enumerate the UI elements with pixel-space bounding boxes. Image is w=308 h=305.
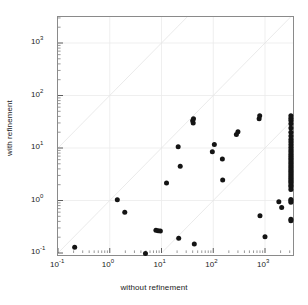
y-axis-label-container: with refinement bbox=[5, 68, 19, 188]
data-point bbox=[263, 234, 268, 239]
data-point bbox=[212, 142, 217, 147]
scatter-plot-figure: 10-1100101102103 10-1100101102103 withou… bbox=[0, 0, 308, 305]
data-point bbox=[164, 181, 169, 186]
data-point bbox=[276, 199, 281, 204]
data-point bbox=[176, 144, 181, 149]
data-point bbox=[158, 229, 163, 234]
reference-line-lower-offset bbox=[162, 122, 291, 253]
data-point bbox=[288, 200, 293, 205]
reference-line-identity bbox=[58, 17, 291, 253]
x-tick-label-2: 101 bbox=[154, 260, 166, 269]
diagonal-reference-lines bbox=[58, 17, 291, 253]
data-point bbox=[192, 242, 197, 247]
plot-frame bbox=[58, 17, 294, 256]
y-tick-label-0: 10-1 bbox=[31, 247, 45, 256]
y-tick-label-2: 101 bbox=[31, 142, 43, 151]
data-point bbox=[210, 149, 215, 154]
data-point bbox=[288, 218, 293, 223]
reference-line-upper-offset bbox=[58, 17, 187, 148]
data-point bbox=[115, 197, 120, 202]
data-point bbox=[279, 205, 284, 210]
data-point bbox=[235, 129, 240, 134]
data-point bbox=[257, 213, 262, 218]
data-point bbox=[220, 178, 225, 183]
data-point bbox=[72, 245, 77, 250]
data-point bbox=[143, 251, 148, 256]
x-tick-label-4: 103 bbox=[257, 260, 269, 269]
data-points bbox=[72, 113, 293, 256]
x-axis-label: without refinement bbox=[0, 283, 308, 292]
x-tick-label-0: 10-1 bbox=[50, 260, 64, 269]
data-point bbox=[178, 164, 183, 169]
x-tick-label-3: 102 bbox=[205, 260, 217, 269]
data-point bbox=[191, 116, 196, 121]
data-point bbox=[220, 156, 225, 161]
data-point bbox=[288, 187, 293, 192]
data-point bbox=[176, 236, 181, 241]
y-tick-label-3: 102 bbox=[31, 90, 43, 99]
x-tick-label-1: 100 bbox=[102, 260, 114, 269]
data-point bbox=[257, 113, 262, 118]
y-tick-label-1: 100 bbox=[31, 195, 43, 204]
y-axis-label: with refinement bbox=[5, 68, 14, 188]
data-point bbox=[122, 210, 127, 215]
y-tick-label-4: 103 bbox=[31, 37, 43, 46]
data-point bbox=[288, 121, 293, 126]
